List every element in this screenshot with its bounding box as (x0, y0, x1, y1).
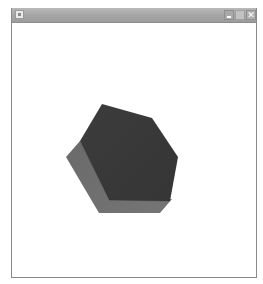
title-bar[interactable]: ✕ (12, 8, 256, 23)
close-button[interactable]: ✕ (246, 10, 256, 20)
app-window: ✕ (11, 8, 257, 278)
minimize-button[interactable] (224, 10, 234, 20)
app-icon[interactable] (15, 10, 24, 19)
render-canvas[interactable] (12, 23, 256, 277)
hexagonal-prism-render (12, 23, 256, 277)
maximize-button[interactable] (235, 10, 245, 20)
